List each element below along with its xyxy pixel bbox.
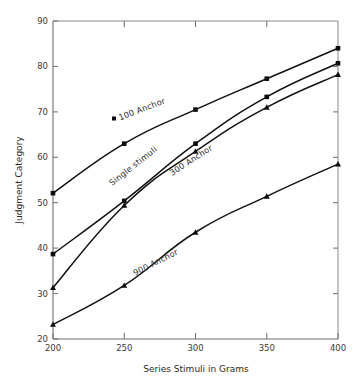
data-point-triangle-marker xyxy=(335,72,341,77)
data-point-triangle-marker xyxy=(335,161,341,166)
x-tick-label-400: 400 xyxy=(330,343,346,353)
curve-label-marker-square-icon xyxy=(112,117,116,121)
series-curve-100-anchor xyxy=(53,48,338,193)
data-point-square-marker xyxy=(193,141,198,146)
data-point-square-marker xyxy=(51,191,56,196)
x-axis-ticks xyxy=(53,333,338,339)
right-frame-ticks xyxy=(333,66,338,293)
y-tick-label-90: 90 xyxy=(37,16,48,26)
series-curve-900-anchor xyxy=(53,164,338,324)
line-chart: 20 30 40 50 60 70 80 90 xyxy=(0,0,357,383)
data-point-square-marker xyxy=(193,107,198,112)
curve-labels-layer: 100 Anchor Single stimuli 300 Anchor 900… xyxy=(107,95,215,277)
x-tick-label-200: 200 xyxy=(45,343,61,353)
series-markers-layer xyxy=(50,46,341,327)
series-curve-300-anchor xyxy=(53,75,338,288)
curve-label-text-900-anchor: 900 Anchor xyxy=(131,246,180,277)
curve-label-100-anchor: 100 Anchor xyxy=(112,95,167,122)
curve-label-text-100-anchor: 100 Anchor xyxy=(117,95,167,122)
y-tick-label-70: 70 xyxy=(37,107,48,117)
data-point-square-marker xyxy=(264,76,269,81)
x-axis-tick-labels: 200 250 300 350 400 xyxy=(45,343,346,353)
x-tick-label-250: 250 xyxy=(116,343,132,353)
y-tick-label-50: 50 xyxy=(37,198,48,208)
plot-frame xyxy=(53,21,338,339)
y-axis-ticks xyxy=(53,21,58,339)
data-point-square-marker xyxy=(264,95,269,100)
x-tick-label-350: 350 xyxy=(259,343,275,353)
data-point-triangle-marker xyxy=(193,229,199,234)
y-axis-tick-labels: 20 30 40 50 60 70 80 90 xyxy=(37,16,48,344)
y-tick-label-30: 30 xyxy=(37,289,48,299)
x-tick-label-300: 300 xyxy=(187,343,203,353)
data-point-square-marker xyxy=(336,61,341,66)
data-point-square-marker xyxy=(51,252,56,257)
x-axis-title: Series Stimuli in Grams xyxy=(143,364,249,374)
y-tick-label-60: 60 xyxy=(37,152,48,162)
y-tick-label-40: 40 xyxy=(37,243,48,253)
top-frame-ticks xyxy=(124,21,267,27)
data-point-square-marker xyxy=(336,46,341,51)
data-point-square-marker xyxy=(122,141,127,146)
y-axis-title: Judgment Category xyxy=(14,136,24,225)
y-tick-label-80: 80 xyxy=(37,61,48,71)
series-layer xyxy=(53,48,338,324)
chart-figure: 20 30 40 50 60 70 80 90 xyxy=(0,0,357,383)
